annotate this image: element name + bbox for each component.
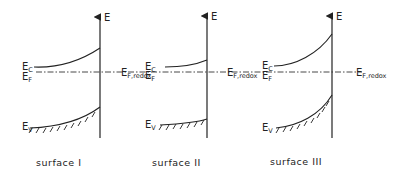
- panel-surface-3: E EC EF EV EF,redox surface III: [262, 11, 387, 167]
- axis-label-e: E: [211, 11, 217, 22]
- conduction-band-edge: [165, 60, 207, 67]
- conduction-band-edge: [274, 34, 332, 66]
- valence-band-edge: [30, 107, 100, 128]
- redox-label: EF,redox: [356, 67, 387, 80]
- ev-label: EV: [145, 119, 156, 132]
- axis-label-e: E: [336, 11, 342, 22]
- valence-hatch: [276, 101, 329, 133]
- panel-surface-2: E EC EF EV EF,redox surface II: [145, 11, 258, 168]
- valence-hatch: [29, 112, 95, 133]
- caption-surface-2: surface II: [152, 157, 201, 168]
- ev-label: EV: [22, 121, 33, 134]
- conduction-band-edge: [34, 48, 100, 67]
- valence-band-edge: [276, 95, 332, 128]
- valence-band-edge: [160, 119, 207, 125]
- axis-label-e: E: [104, 12, 110, 23]
- panel-surface-1: E EC EF EV EF,redox surface I: [22, 12, 152, 168]
- band-diagram: E EC EF EV EF,redox surface I E: [0, 0, 400, 178]
- ev-label: EV: [262, 122, 273, 135]
- redox-label: EF,redox: [227, 67, 258, 80]
- caption-surface-1: surface I: [36, 157, 81, 168]
- caption-surface-3: surface III: [270, 156, 322, 167]
